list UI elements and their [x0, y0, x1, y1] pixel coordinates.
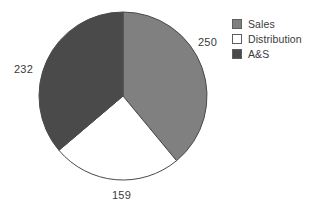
- slice-value-label-as: 232: [14, 63, 33, 75]
- legend-swatch-sales-icon: [232, 19, 242, 29]
- pie-chart-page: 250 232 159 Sales Distribution A&S: [0, 0, 327, 211]
- pie-slices: [39, 12, 207, 180]
- chart-legend: Sales Distribution A&S: [232, 17, 302, 60]
- legend-label-as: A&S: [248, 48, 269, 60]
- legend-label-distribution: Distribution: [248, 33, 302, 45]
- legend-label-sales: Sales: [248, 18, 275, 30]
- legend-swatch-as-icon: [232, 49, 242, 59]
- legend-item-as[interactable]: A&S: [232, 47, 302, 60]
- slice-value-label-sales: 250: [198, 36, 217, 48]
- slice-value-label-distribution: 159: [112, 189, 131, 201]
- legend-item-sales[interactable]: Sales: [232, 17, 302, 30]
- legend-item-distribution[interactable]: Distribution: [232, 32, 302, 45]
- legend-swatch-distribution-icon: [232, 34, 242, 44]
